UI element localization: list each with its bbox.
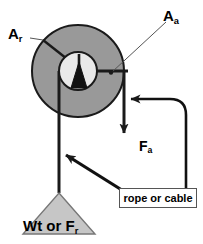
rope-or-cable-callout-box: rope or cable bbox=[119, 188, 197, 208]
applied-force-label-sub: a bbox=[148, 145, 153, 155]
resistance-arm-label: Ar bbox=[8, 26, 22, 41]
diagram-canvas: Ar Aa Fa Wt or Fr rope or cable bbox=[0, 0, 203, 244]
straight-callout-arrow-icon bbox=[66, 155, 125, 192]
leader-line-icon bbox=[112, 22, 166, 72]
weight-label-prefix: Wt or F bbox=[23, 217, 75, 234]
leader-line-icon bbox=[30, 38, 43, 40]
applied-force-label-base: F bbox=[139, 138, 148, 154]
rope-or-cable-callout-text: rope or cable bbox=[123, 192, 192, 204]
weight-label: Wt or Fr bbox=[23, 218, 78, 233]
resistance-arm-label-sub: r bbox=[19, 34, 23, 44]
effort-arm-label: Aa bbox=[163, 8, 179, 23]
applied-force-label: Fa bbox=[139, 139, 152, 153]
effort-arm-label-sub: a bbox=[174, 16, 179, 26]
effort-arm-label-base: A bbox=[163, 7, 174, 24]
effort-arm-anchor-dot bbox=[109, 70, 113, 74]
resistance-arm-label-base: A bbox=[8, 25, 19, 42]
weight-label-sub: r bbox=[75, 226, 79, 236]
